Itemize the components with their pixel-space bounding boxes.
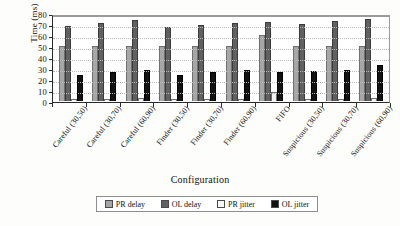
bar-ol-jitter	[110, 72, 116, 101]
bar-ol-jitter	[244, 70, 250, 101]
x-axis-category-label: Careful (30,50)	[51, 104, 89, 150]
y-axis-title: Time (ms)	[29, 0, 39, 63]
x-axis-category-label: Finder (30,50)	[154, 104, 190, 147]
bar-group	[321, 17, 354, 101]
legend-label: PR delay	[116, 200, 145, 209]
legend-item: PR delay	[105, 200, 145, 209]
y-axis-tick-label: 40	[0, 55, 52, 64]
x-axis-category-label: FIFO	[274, 104, 292, 124]
bar-group	[121, 17, 154, 101]
y-axis-tick-value: 30	[38, 66, 52, 75]
y-axis-tick-label: 20	[0, 77, 52, 86]
gridline	[53, 71, 389, 72]
y-axis-tick-label: 70	[0, 22, 52, 31]
bar-group	[87, 17, 120, 101]
y-axis-tick-label: 0	[0, 99, 52, 108]
bar-group	[188, 17, 221, 101]
legend-label: OL jitter	[282, 200, 309, 209]
bar-group	[254, 17, 287, 101]
x-axis-category-label: Careful (60,90)	[119, 104, 157, 150]
gridline	[53, 16, 389, 17]
y-axis-tick-value: 10	[38, 88, 52, 97]
gridline	[53, 38, 389, 39]
y-axis-tick-value: 80	[38, 11, 52, 20]
legend-swatch-ol-jitter	[271, 200, 279, 208]
bar-ol-jitter	[210, 72, 216, 101]
bar-groups	[54, 17, 388, 101]
legend-item: OL jitter	[271, 200, 309, 209]
y-axis-tick-value: 60	[38, 33, 52, 42]
bar-ol-jitter	[344, 70, 350, 101]
y-axis-tick-value: 70	[38, 22, 52, 31]
legend-item: PR jitter	[217, 200, 255, 209]
chart-legend: PR delayOL delayPR jitterOL jitter	[96, 196, 318, 212]
x-axis-category-label: Careful (30,70)	[85, 104, 123, 150]
bar-group	[54, 17, 87, 101]
legend-swatch-pr-jitter	[217, 200, 225, 208]
x-axis-category-labels: Careful (30,50)Careful (30,70)Careful (6…	[52, 104, 390, 172]
x-axis-category-label: Finder (30,70)	[188, 104, 224, 147]
y-axis-tick-value: 0	[43, 99, 52, 108]
y-axis-tick-value: 50	[38, 44, 52, 53]
legend-label: PR jitter	[228, 200, 255, 209]
bar-ol-jitter	[177, 75, 183, 101]
gridline	[53, 60, 389, 61]
y-axis-tick-label: 10	[0, 88, 52, 97]
gridline	[53, 49, 389, 50]
gridline	[53, 82, 389, 83]
bar-ol-jitter	[77, 75, 83, 101]
bar-group	[221, 17, 254, 101]
plot-area-wrapper	[52, 15, 390, 103]
x-axis-title: Configuration	[0, 174, 400, 185]
gridline	[53, 93, 389, 94]
y-axis: 80706050403020100	[0, 15, 52, 103]
bar-ol-delay	[198, 25, 204, 101]
bar-ol-delay	[232, 23, 238, 101]
legend-label: OL delay	[172, 200, 202, 209]
legend-swatch-ol-delay	[161, 200, 169, 208]
plot-area	[52, 15, 390, 103]
bar-ol-delay	[299, 24, 305, 101]
y-axis-tick-label: 30	[0, 66, 52, 75]
legend-swatch-pr-delay	[105, 200, 113, 208]
y-axis-tick-value: 40	[38, 55, 52, 64]
bar-group	[355, 17, 388, 101]
bar-ol-delay	[265, 22, 271, 101]
y-axis-tick-label: 80	[0, 11, 52, 20]
bar-group	[154, 17, 187, 101]
bar-ol-jitter	[277, 72, 283, 101]
gridline	[53, 27, 389, 28]
bar-group	[288, 17, 321, 101]
y-axis-tick-label: 60	[0, 33, 52, 42]
bar-ol-jitter	[311, 71, 317, 101]
bar-ol-jitter	[144, 70, 150, 101]
x-axis-category-label: Finder (60,90)	[222, 104, 258, 147]
bar-ol-delay	[98, 23, 104, 101]
legend-item: OL delay	[161, 200, 202, 209]
y-axis-tick-label: 50	[0, 44, 52, 53]
y-axis-tick-value: 20	[38, 77, 52, 86]
bar-chart-figure: 80706050403020100 Time (ms) Careful (30,…	[0, 0, 400, 226]
